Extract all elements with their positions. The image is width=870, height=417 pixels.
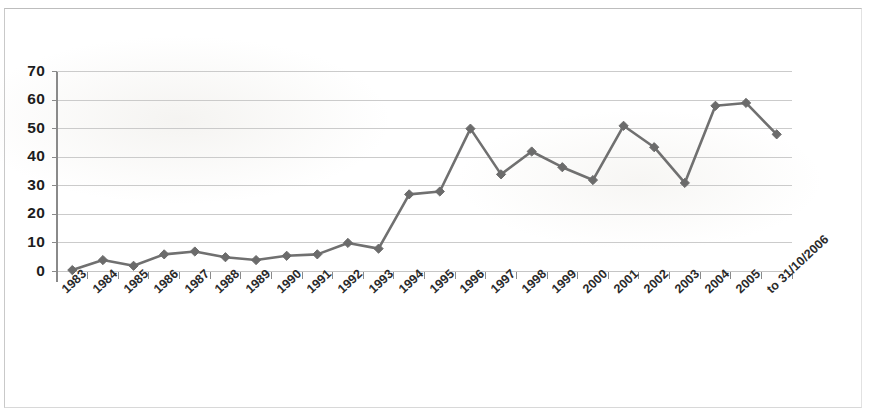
data-point-marker	[435, 187, 444, 196]
data-point-marker	[711, 101, 720, 110]
y-axis-label: 20	[11, 204, 45, 222]
data-point-marker	[221, 253, 230, 262]
y-axis-label: 70	[11, 62, 45, 80]
line-chart: 010203040506070 198319841985198619871988…	[0, 0, 870, 417]
chart-plot-svg	[0, 0, 870, 417]
y-axis-label: 60	[11, 90, 45, 108]
data-point-marker	[129, 261, 138, 270]
data-point-marker	[190, 247, 199, 256]
y-axis-label: 0	[11, 262, 45, 280]
data-point-marker	[160, 250, 169, 259]
y-axis-label: 10	[11, 233, 45, 251]
data-point-marker	[558, 163, 567, 172]
data-series-line	[72, 103, 776, 270]
data-point-marker	[343, 238, 352, 247]
data-point-marker	[313, 250, 322, 259]
data-point-marker	[251, 255, 260, 264]
y-axis-label: 50	[11, 119, 45, 137]
y-axis-label: 40	[11, 147, 45, 165]
y-axis-label: 30	[11, 176, 45, 194]
data-point-marker	[98, 255, 107, 264]
data-point-marker	[282, 251, 291, 260]
